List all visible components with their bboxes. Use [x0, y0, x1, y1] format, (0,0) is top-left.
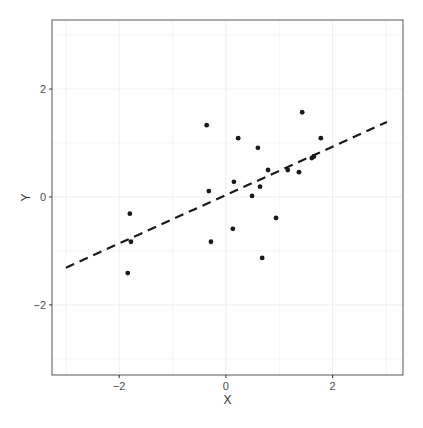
- y-tick-label: 2: [40, 83, 46, 95]
- x-tick-label: 0: [223, 380, 229, 392]
- data-point: [285, 168, 290, 173]
- regression-line: [66, 122, 387, 268]
- data-point: [127, 211, 132, 216]
- grid-lines: [52, 20, 403, 375]
- data-point: [258, 184, 263, 189]
- data-point: [260, 256, 265, 261]
- data-point: [274, 216, 279, 221]
- data-point: [297, 170, 302, 175]
- plot-panel-border: [52, 20, 403, 375]
- x-axis-title: X: [223, 393, 231, 407]
- fitted-line: [66, 122, 387, 268]
- data-point: [312, 154, 317, 159]
- y-tick-label: −2: [33, 299, 46, 311]
- data-point: [125, 271, 130, 276]
- axis-ticks: −202−202: [33, 83, 335, 392]
- data-point: [256, 145, 261, 150]
- data-point: [204, 123, 209, 128]
- x-tick-label: −2: [113, 380, 126, 392]
- data-point: [206, 189, 211, 194]
- x-tick-label: 2: [330, 380, 336, 392]
- data-point: [266, 168, 271, 173]
- data-points: [125, 110, 323, 276]
- scatter-plot: −202−202 X Y: [0, 0, 423, 428]
- data-point: [209, 239, 214, 244]
- data-point: [318, 136, 323, 141]
- data-point: [250, 193, 255, 198]
- data-point: [232, 179, 237, 184]
- data-point: [230, 226, 235, 231]
- data-point: [300, 110, 305, 115]
- data-point: [129, 239, 134, 244]
- y-axis-title: Y: [19, 193, 33, 201]
- y-tick-label: 0: [40, 191, 46, 203]
- data-point: [236, 136, 241, 141]
